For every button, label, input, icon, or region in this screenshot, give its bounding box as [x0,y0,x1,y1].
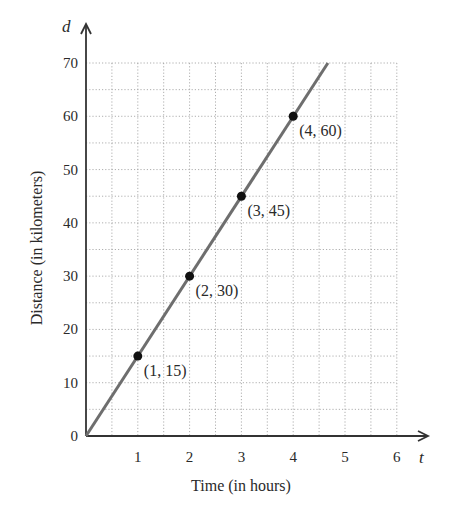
data-point [289,112,298,121]
y-tick-label: 40 [63,215,78,231]
x-tick-label: 4 [289,449,297,465]
y-tick-label: 10 [63,375,78,391]
distance-time-chart: 123456010203040506070 (1, 15)(2, 30)(3, … [0,0,454,522]
x-tick-label: 2 [186,449,194,465]
x-axis-variable: t [419,448,425,467]
x-axis-label: Time (in hours) [191,477,291,495]
point-annotation: (2, 30) [196,282,239,300]
data-point [133,352,142,361]
data-point [237,192,246,201]
y-tick-label: 60 [63,108,78,124]
tick-labels: 123456010203040506070 [63,55,401,465]
y-axis-variable: d [62,17,71,36]
data-point [185,272,194,281]
x-tick-label: 3 [238,449,246,465]
y-tick-label: 50 [63,162,78,178]
y-tick-label: 20 [63,321,78,337]
x-tick-label: 5 [341,449,349,465]
y-tick-label: 30 [63,268,78,284]
point-annotation: (4, 60) [299,122,342,140]
x-tick-label: 1 [134,449,142,465]
point-annotation: (3, 45) [247,202,290,220]
point-annotation: (1, 15) [144,362,187,380]
y-tick-label: 70 [63,55,78,71]
grid-lines [86,63,397,436]
y-axis-label: Distance (in kilometers) [28,171,46,326]
plot-area: (1, 15)(2, 30)(3, 45)(4, 60) [86,63,342,436]
y-tick-label: 0 [71,428,79,444]
axes [81,24,428,441]
x-tick-label: 6 [393,449,401,465]
